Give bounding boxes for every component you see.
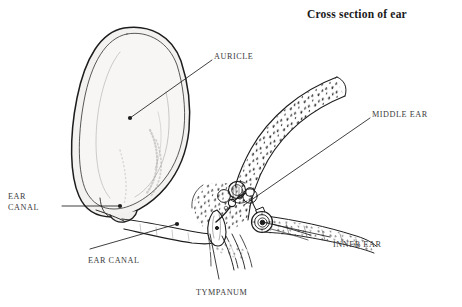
leader-dot-ear-canal-left xyxy=(118,204,122,208)
label-ear-canal-bottom: EAR CANAL xyxy=(88,256,140,267)
label-inner-ear: INNER EAR xyxy=(333,240,381,251)
illustration-linework xyxy=(62,27,376,279)
figure-canvas: Cross section of ear AURICLE MIDDLE EAR … xyxy=(0,0,462,307)
label-auricle: AURICLE xyxy=(214,52,253,63)
temporal-bone-band xyxy=(230,77,346,220)
label-middle-ear: MIDDLE EAR xyxy=(372,110,428,121)
auricle-shape xyxy=(72,27,190,222)
leader-ear-canal-bottom xyxy=(90,224,177,249)
leader-dot-ear-canal-bottom xyxy=(175,222,179,226)
label-ear-canal-left-line2: CANAL xyxy=(8,203,39,214)
label-ear-canal-left-line1: EAR xyxy=(8,192,39,203)
leader-dot-auricle xyxy=(128,116,132,120)
page-title: Cross section of ear xyxy=(307,8,407,20)
label-ear-canal-left: EAR CANAL xyxy=(8,192,39,213)
label-tympanum: TYMPANUM xyxy=(196,288,247,299)
ear-cross-section-illustration xyxy=(0,0,462,307)
